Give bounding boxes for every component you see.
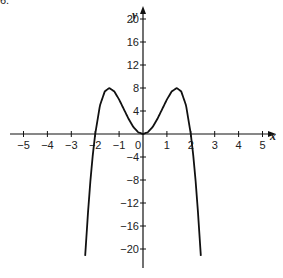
- x-tick-label: 4: [236, 139, 242, 151]
- y-tick-label: −16: [120, 220, 139, 232]
- y-tick-label: 8: [133, 82, 139, 94]
- x-tick-label: −4: [41, 139, 54, 151]
- x-tick-label: 1: [164, 139, 170, 151]
- y-axis-arrow-icon: [140, 6, 146, 14]
- axes: [10, 6, 276, 268]
- x-tick-label: 5: [259, 139, 265, 151]
- y-tick-label: 4: [133, 105, 139, 117]
- y-axis-label: y: [130, 8, 138, 22]
- x-axis-label: x: [269, 129, 276, 143]
- x-tick-label: −5: [17, 139, 30, 151]
- y-tick-label: −12: [120, 197, 139, 209]
- function-graph: −5−4−3−2−1012345−20−16−12−8−448121620 x …: [0, 0, 283, 278]
- y-tick-label: −4: [126, 151, 139, 163]
- y-tick-label: 12: [127, 59, 139, 71]
- x-tick-label: −3: [65, 139, 78, 151]
- x-tick-label: 3: [212, 139, 218, 151]
- x-tick-label: −1: [113, 139, 126, 151]
- y-tick-label: −20: [120, 243, 139, 255]
- x-tick-label: 0: [135, 139, 141, 151]
- y-tick-label: −8: [126, 174, 139, 186]
- y-tick-label: 16: [127, 36, 139, 48]
